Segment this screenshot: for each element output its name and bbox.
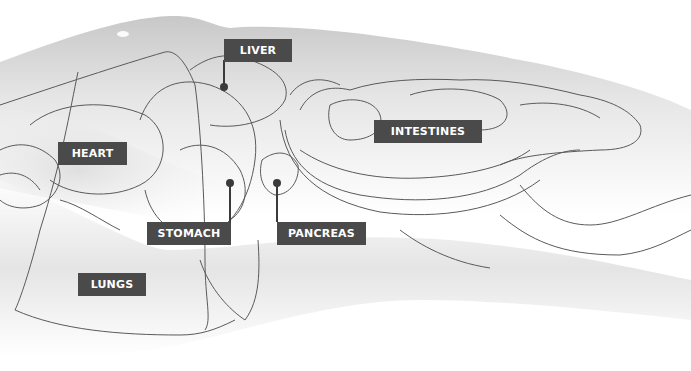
label-heart: HEART bbox=[58, 142, 127, 165]
label-stomach: STOMACH bbox=[147, 222, 231, 245]
label-liver: LIVER bbox=[224, 39, 292, 62]
label-intestines: INTESTINES bbox=[374, 120, 482, 143]
anatomy-diagram: LIVER HEART INTESTINES STOMACH PANCREAS … bbox=[0, 0, 691, 371]
label-pancreas: PANCREAS bbox=[277, 222, 366, 245]
body-silhouette bbox=[0, 16, 691, 356]
body-illustration bbox=[0, 0, 691, 371]
label-lungs: LUNGS bbox=[78, 273, 146, 296]
